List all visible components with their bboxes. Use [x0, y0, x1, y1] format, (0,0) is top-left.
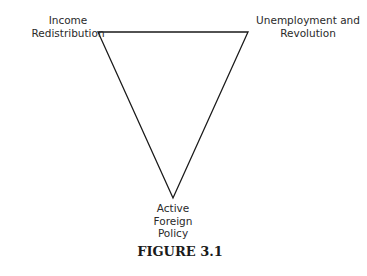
label-line: Active: [133, 202, 213, 215]
inverted-triangle: [98, 32, 248, 198]
label-line: Policy: [133, 227, 213, 240]
figure-caption: FIGURE 3.1: [110, 244, 250, 259]
label-line: Income: [18, 14, 118, 27]
vertex-label-unemployment-revolution: Unemployment and Revolution: [246, 14, 367, 39]
vertex-label-income-redistribution: Income Redistribution: [18, 14, 118, 39]
label-line: Redistribution: [18, 27, 118, 40]
label-line: Revolution: [246, 27, 367, 40]
label-line: Foreign: [133, 215, 213, 228]
label-line: Unemployment and: [246, 14, 367, 27]
vertex-label-active-foreign-policy: Active Foreign Policy: [133, 202, 213, 240]
